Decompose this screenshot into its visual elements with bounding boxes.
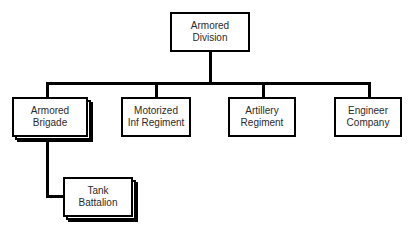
node-engineer-company-label-line2: Company <box>347 117 390 129</box>
connector-root-stem <box>209 52 212 84</box>
node-artillery-regiment[interactable]: Artillery Regiment <box>228 97 296 137</box>
node-armored-brigade-label-line1: Armored <box>31 105 69 117</box>
connector-trunk-bus <box>46 82 371 85</box>
node-artillery-regiment-label-line1: Artillery <box>245 105 278 117</box>
node-motorized-inf-regiment-label-line2: Inf Regiment <box>128 117 185 129</box>
node-armored-division-face: Armored Division <box>170 12 250 52</box>
node-tank-battalion-label-line2: Battalion <box>79 197 118 209</box>
node-artillery-regiment-face: Artillery Regiment <box>228 97 296 137</box>
node-armored-brigade-label-line2: Brigade <box>33 117 67 129</box>
node-tank-battalion[interactable]: Tank Battalion <box>63 177 133 217</box>
node-armored-brigade[interactable]: Armored Brigade <box>12 97 88 137</box>
node-tank-battalion-face: Tank Battalion <box>63 177 133 217</box>
node-motorized-inf-regiment-label-line1: Motorized <box>134 105 178 117</box>
node-engineer-company-label-line1: Engineer <box>348 105 388 117</box>
connector-elbow-vertical-tank-battalion <box>46 142 49 198</box>
node-engineer-company[interactable]: Engineer Company <box>334 97 402 137</box>
node-armored-division-label-line1: Armored <box>191 20 229 32</box>
node-motorized-inf-regiment-face: Motorized Inf Regiment <box>121 97 191 137</box>
node-artillery-regiment-label-line2: Regiment <box>241 117 284 129</box>
node-armored-division-label-line2: Division <box>192 32 227 44</box>
connector-drop-armored-brigade <box>46 82 49 98</box>
node-tank-battalion-label-line1: Tank <box>87 185 108 197</box>
node-armored-brigade-face: Armored Brigade <box>12 97 88 137</box>
connector-drop-motorized-inf-regiment <box>155 82 158 98</box>
node-armored-division[interactable]: Armored Division <box>170 12 250 52</box>
org-chart-canvas: Armored Division Armored Brigade Motoriz… <box>0 0 417 237</box>
node-engineer-company-face: Engineer Company <box>334 97 402 137</box>
connector-drop-artillery-regiment <box>262 82 265 98</box>
node-motorized-inf-regiment[interactable]: Motorized Inf Regiment <box>121 97 191 137</box>
connector-drop-engineer-company <box>368 82 371 98</box>
